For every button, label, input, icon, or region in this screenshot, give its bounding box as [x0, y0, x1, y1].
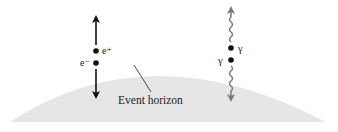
outer-photon-dot — [228, 45, 234, 51]
inner-photon-dot — [228, 57, 234, 63]
event-horizon-label: Event horizon — [118, 94, 183, 106]
inner-photon-label: γ — [217, 55, 223, 66]
positron-label: e⁺ — [102, 45, 112, 56]
positron-dot — [93, 48, 99, 54]
photon-escape-wavy-arrow-icon — [230, 10, 233, 42]
electron-label: e⁻ — [80, 57, 90, 68]
outer-photon-label: γ — [237, 43, 243, 54]
electron-dot — [93, 60, 99, 66]
hawking-radiation-diagram: Event horizon e⁺ e⁻ γ γ — [0, 0, 338, 132]
